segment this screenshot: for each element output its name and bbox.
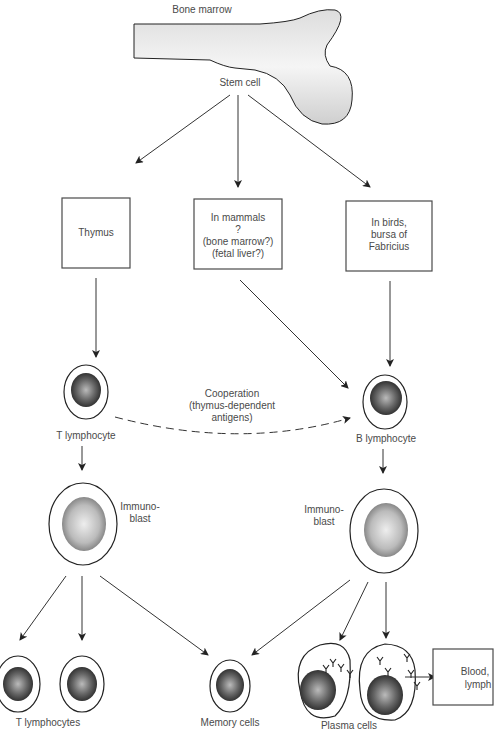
bone-marrow-label: Bone marrow bbox=[172, 4, 232, 15]
arrow-stem-to-thymus bbox=[136, 95, 230, 163]
lymphocyte-differentiation-diagram: Bone marrow Stem cell Thymus In mammals … bbox=[0, 0, 500, 741]
mammals-label-line4: (fetal liver?) bbox=[212, 248, 264, 259]
thymus-label: Thymus bbox=[78, 227, 114, 238]
t-immunoblast-label-line1: Immuno- bbox=[120, 501, 159, 512]
t-lymphocytes-label: T lymphocytes bbox=[16, 717, 80, 728]
mammals-label-line2: ? bbox=[235, 224, 241, 235]
arrow-to-t-lymphocyte-1 bbox=[20, 576, 66, 640]
b-immunoblast-label-line2: blast bbox=[313, 516, 334, 527]
memory-cells-label: Memory cells bbox=[201, 717, 260, 728]
b-lymphocyte-label: B lymphocyte bbox=[356, 433, 416, 444]
b-immunoblast-cell bbox=[350, 489, 418, 573]
arrow-mammals-to-b bbox=[240, 280, 348, 388]
b-lymphocyte-cell bbox=[363, 375, 407, 429]
t-lymphocytes-daughter-cells bbox=[0, 656, 104, 712]
birds-label-line3: Fabricius bbox=[369, 241, 410, 252]
cooperation-label-line2: (thymus-dependent bbox=[189, 400, 275, 411]
birds-label-line1: In birds, bbox=[371, 217, 407, 228]
memory-cell bbox=[210, 660, 250, 712]
blood-label: Blood, bbox=[461, 666, 489, 677]
stem-cell-label: Stem cell bbox=[219, 77, 260, 88]
t-lymphocyte-label: T lymphocyte bbox=[56, 430, 116, 441]
arrow-t-to-memory bbox=[100, 576, 208, 655]
birds-label-line2: bursa of bbox=[371, 229, 407, 240]
lymph-label: lymph bbox=[465, 679, 492, 690]
cooperation-label-line1: Cooperation bbox=[205, 388, 259, 399]
cooperation-label-line3: antigens) bbox=[211, 412, 252, 423]
mammals-label-line1: In mammals bbox=[211, 212, 265, 223]
bone-illustration bbox=[134, 10, 352, 124]
plasma-cells-label: Plasma cells bbox=[321, 720, 377, 731]
blood-lymph-box bbox=[433, 649, 493, 705]
t-lymphocyte-cell bbox=[64, 365, 108, 419]
arrow-b-to-plasma-1 bbox=[340, 582, 368, 640]
t-immunoblast-label-line2: blast bbox=[129, 513, 150, 524]
plasma-cells bbox=[298, 643, 444, 720]
t-immunoblast-cell bbox=[49, 483, 117, 565]
mammals-label-line3: (bone marrow?) bbox=[203, 236, 274, 247]
b-immunoblast-label-line1: Immuno- bbox=[304, 504, 343, 515]
